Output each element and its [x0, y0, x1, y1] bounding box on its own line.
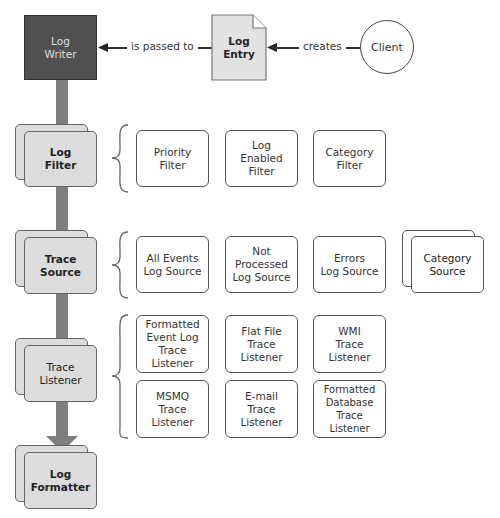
formatted-database-trace-listener-node: Formatted Database Trace Listener — [313, 380, 386, 438]
log-filter-node: Log Filter — [24, 131, 97, 187]
trace-listener-node: Trace Listener — [24, 345, 97, 402]
flat-file-trace-listener-node: Flat File Trace Listener — [225, 315, 298, 373]
category-source-node: Category Source — [411, 236, 484, 293]
errors-log-source-node: Errors Log Source — [313, 236, 386, 293]
formatted-event-log-trace-listener-node: Formatted Event Log Trace Listener — [136, 315, 209, 373]
log-enabled-filter-node: Log Enabled Filter — [225, 130, 298, 187]
msmq-trace-listener-node: MSMQ Trace Listener — [136, 380, 209, 438]
category-filter-node: Category Filter — [313, 130, 386, 187]
priority-filter-node: Priority Filter — [136, 130, 209, 187]
trace-source-node: Trace Source — [24, 237, 97, 294]
not-processed-log-source-node: Not Processed Log Source — [225, 236, 298, 293]
log-formatter-node: Log Formatter — [24, 452, 97, 509]
email-trace-listener-node: E-mail Trace Listener — [225, 380, 298, 438]
wmi-trace-listener-node: WMI Trace Listener — [313, 315, 386, 373]
all-events-log-source-node: All Events Log Source — [136, 236, 209, 293]
